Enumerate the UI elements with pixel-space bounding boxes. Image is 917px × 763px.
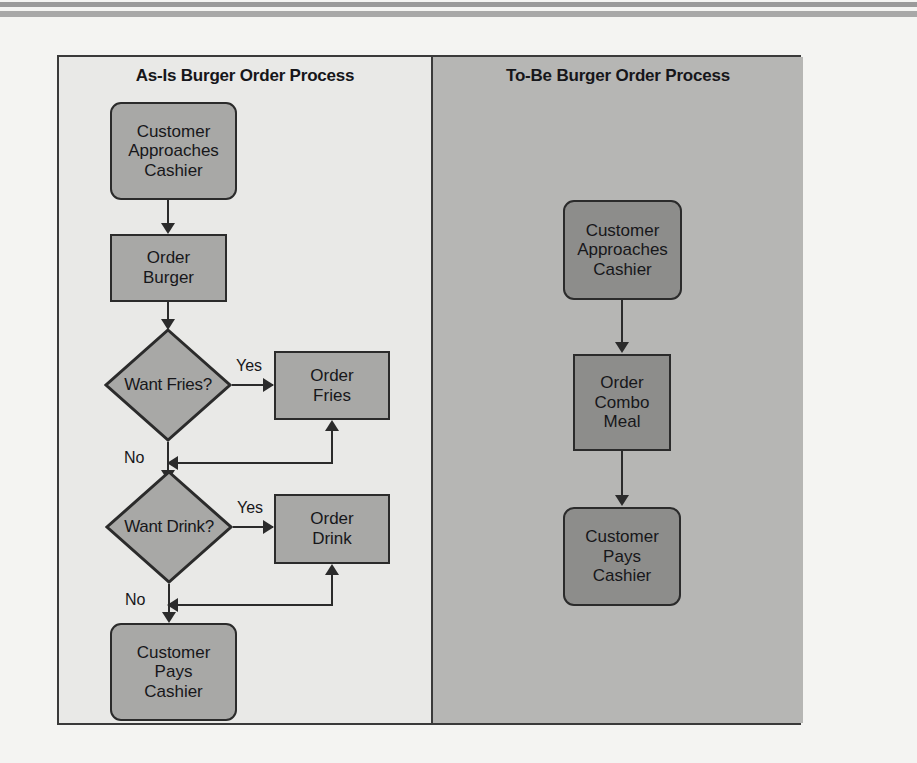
connector-approaches-to-order-burger [167,200,169,223]
arrowhead-want-drink-yes [263,520,274,534]
node-as-is-want-drink-decision[interactable]: Want Drink? [105,470,233,584]
node-as-is-order-fries[interactable]: Order Fries [274,351,390,420]
node-to-be-customer-approaches-cashier[interactable]: Customer Approaches Cashier [563,200,682,300]
process-comparison-figure: As-Is Burger Order Process Customer Appr… [57,55,801,725]
connector-order-fries-return-horizontal [176,462,333,464]
arrowhead-order-drink-return [325,564,339,575]
panel-to-be: To-Be Burger Order Process Customer Appr… [431,57,803,723]
connector-order-fries-return-vertical [331,431,333,464]
arrowhead-order-fries-return [325,420,339,431]
edge-label-want-drink-no: No [125,591,145,609]
arrowhead-want-fries-yes [263,378,274,392]
node-as-is-customer-approaches-cashier[interactable]: Customer Approaches Cashier [110,102,237,200]
connector-order-combo-to-customer-pays [621,451,623,495]
arrowhead-approaches-to-order-combo [615,342,629,353]
node-as-is-customer-pays-cashier[interactable]: Customer Pays Cashier [110,623,237,721]
edge-label-want-fries-no: No [124,449,144,467]
connector-order-drink-return-vertical [331,575,333,606]
top-decorative-rule-lower [0,11,917,17]
connector-approaches-to-order-combo [621,300,623,342]
panel-as-is: As-Is Burger Order Process Customer Appr… [59,57,431,723]
panel-title-to-be: To-Be Burger Order Process [433,66,803,86]
arrowhead-approaches-to-order-burger [161,223,175,234]
node-as-is-want-fries-decision[interactable]: Want Fries? [104,328,232,442]
edge-label-want-drink-yes: Yes [237,499,263,517]
top-decorative-rule-upper [0,2,917,7]
arrowhead-want-drink-no [162,612,176,623]
node-as-is-order-drink[interactable]: Order Drink [274,494,390,564]
connector-order-drink-return-horizontal [176,604,333,606]
panel-title-as-is: As-Is Burger Order Process [59,66,431,86]
node-as-is-order-burger[interactable]: Order Burger [110,234,227,302]
edge-label-want-fries-yes: Yes [236,357,262,375]
node-as-is-want-drink-label: Want Drink? [105,470,233,584]
node-to-be-order-combo-meal[interactable]: Order Combo Meal [573,354,671,451]
arrowhead-order-combo-to-customer-pays [615,495,629,506]
node-as-is-want-fries-label: Want Fries? [104,328,232,442]
node-to-be-customer-pays-cashier[interactable]: Customer Pays Cashier [563,507,681,606]
